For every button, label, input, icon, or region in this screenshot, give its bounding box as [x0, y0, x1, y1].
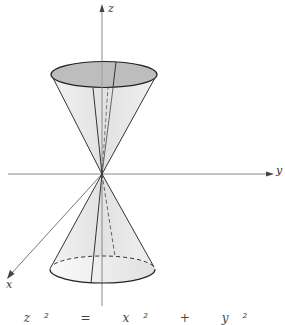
figure-caption-partial: z² = x² + y² [0, 311, 285, 325]
upper-cone-top [51, 62, 157, 88]
z-axis-label: z [108, 2, 114, 15]
y-axis-label: y [276, 164, 282, 177]
x-axis-label: x [6, 278, 12, 291]
z-axis-arrow-icon [100, 4, 105, 12]
y-axis-arrow-icon [266, 172, 274, 177]
